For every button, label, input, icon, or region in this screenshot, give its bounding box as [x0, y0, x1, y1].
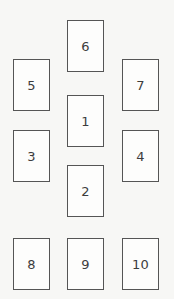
card-label: 8 [27, 258, 35, 271]
card-label: 3 [27, 150, 35, 163]
card-board: 65713428910 [0, 0, 174, 299]
card[interactable]: 3 [13, 130, 50, 182]
card[interactable]: 8 [13, 238, 50, 290]
card[interactable]: 5 [13, 59, 50, 111]
card[interactable]: 10 [122, 238, 159, 290]
card-label: 6 [81, 40, 89, 53]
card[interactable]: 2 [67, 165, 104, 217]
card-label: 7 [136, 79, 144, 92]
card[interactable]: 9 [67, 238, 104, 290]
card[interactable]: 6 [67, 20, 104, 72]
card-label: 1 [81, 115, 89, 128]
card[interactable]: 1 [67, 95, 104, 147]
card[interactable]: 4 [122, 130, 159, 182]
card[interactable]: 7 [122, 59, 159, 111]
card-label: 9 [81, 258, 89, 271]
card-label: 4 [136, 150, 144, 163]
card-label: 5 [27, 79, 35, 92]
card-label: 2 [81, 185, 89, 198]
card-label: 10 [132, 258, 149, 271]
